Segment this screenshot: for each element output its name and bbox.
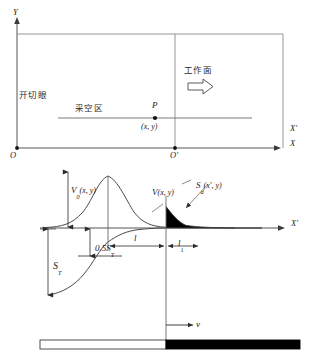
open-off-cut-label: 开切眼 <box>19 91 47 100</box>
v-label-leader <box>152 204 163 212</box>
origin-o-prime-label: O' <box>170 151 178 160</box>
v0-symbol: V <box>71 185 77 195</box>
total-subsidence-subscript: T <box>58 269 61 276</box>
sd-symbol: S <box>196 180 201 190</box>
lower-x-prime-axis-label: X' <box>291 219 298 228</box>
upper-y-axis-label: Y <box>13 8 18 17</box>
diagram-vector-canvas <box>0 0 316 362</box>
offset-l-label: l <box>134 234 137 243</box>
sd-label-connector <box>182 180 191 184</box>
v-curve-label: V(x, y) <box>152 182 174 198</box>
shaded-subsidence-area <box>166 207 235 229</box>
upper-x-prime-axis-label: X' <box>290 124 297 133</box>
v0-arguments: (x, y) <box>80 186 96 195</box>
offset-l1-subscript: 1 <box>181 246 184 253</box>
upper-x-axis <box>17 145 281 151</box>
velocity-label: v <box>196 320 200 329</box>
point-p-coords-label: (x, y) <box>141 123 157 131</box>
goaf-label: 采空区 <box>75 104 103 113</box>
half-subsidence-subscript: T <box>111 251 114 258</box>
offset-l1-label: l1 <box>178 233 184 251</box>
subsidence-curve <box>48 228 262 295</box>
advance-direction-arrow-icon <box>188 79 213 94</box>
point-p-label: P <box>152 101 158 110</box>
working-face-label: 工作面 <box>184 66 212 75</box>
origin-o-label: O <box>10 151 16 160</box>
v0-subscript: 0 <box>77 193 80 200</box>
half-subsidence-label: 0.5ST <box>95 238 114 256</box>
sd-curve-label: Sd(x', y) <box>196 175 222 193</box>
upper-y-axis <box>14 17 20 148</box>
subsidence-diagram-figure: Y X' X O O' 开切眼 采空区 工作面 P (x, y) X' V0(x… <box>0 0 316 362</box>
sd-subscript: d <box>201 188 204 195</box>
v0-curve-label: V0(x, y) <box>71 180 96 198</box>
coal-seam-bar <box>40 340 300 349</box>
sd-arguments: (x', y) <box>204 181 222 190</box>
v-arguments: (x, y) <box>158 188 174 197</box>
half-subsidence-symbol: 0.5S <box>95 243 111 253</box>
total-subsidence-label: ST <box>53 256 61 274</box>
upper-x-axis-label: X <box>290 139 295 148</box>
point-p-marker <box>153 116 157 120</box>
